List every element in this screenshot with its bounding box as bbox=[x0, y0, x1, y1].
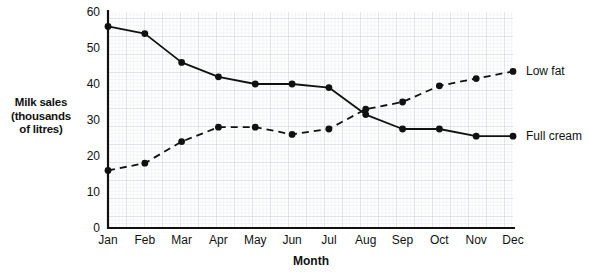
data-point bbox=[105, 167, 112, 174]
x-axis-tick-label: May bbox=[235, 234, 275, 246]
data-point bbox=[473, 75, 480, 82]
data-point bbox=[178, 138, 185, 145]
data-point bbox=[510, 133, 517, 140]
x-axis-tick-label: Oct bbox=[419, 234, 459, 246]
series-label-low-fat: Low fat bbox=[526, 65, 565, 77]
x-axis-tick-label: Jun bbox=[272, 234, 312, 246]
data-point bbox=[178, 59, 185, 66]
y-axis-tick-label: 0 bbox=[74, 222, 100, 234]
data-point bbox=[215, 73, 222, 80]
grid-layer bbox=[108, 12, 513, 228]
data-point bbox=[399, 126, 406, 133]
y-axis-tick-label: 60 bbox=[74, 6, 100, 18]
data-point bbox=[510, 68, 517, 75]
data-point bbox=[473, 133, 480, 140]
data-point bbox=[362, 106, 369, 113]
x-axis-tick-label: Aug bbox=[346, 234, 386, 246]
data-point bbox=[141, 30, 148, 37]
x-axis-tick-label: Apr bbox=[198, 234, 238, 246]
x-axis-tick-label: Sep bbox=[383, 234, 423, 246]
milk-sales-line-chart: Milk sales (thousands of litres) Month 0… bbox=[0, 0, 589, 274]
y-axis-tick-label: 40 bbox=[74, 78, 100, 90]
x-axis-tick-label: Jan bbox=[88, 234, 128, 246]
data-point bbox=[289, 81, 296, 88]
x-axis-tick-label: Jul bbox=[309, 234, 349, 246]
data-point bbox=[105, 23, 112, 30]
x-axis-tick-label: Nov bbox=[456, 234, 496, 246]
series-label-full-cream: Full cream bbox=[526, 130, 582, 142]
y-axis-tick-label: 20 bbox=[74, 150, 100, 162]
data-point bbox=[252, 124, 259, 131]
x-axis-tick-label: Feb bbox=[125, 234, 165, 246]
data-point bbox=[326, 84, 333, 91]
data-point bbox=[141, 160, 148, 167]
x-axis-tick-label: Mar bbox=[162, 234, 202, 246]
y-axis-tick-label: 30 bbox=[74, 114, 100, 126]
x-axis-tick-label: Dec bbox=[493, 234, 533, 246]
data-point bbox=[399, 99, 406, 106]
data-point bbox=[252, 81, 259, 88]
data-point bbox=[289, 131, 296, 138]
y-axis-tick-label: 10 bbox=[74, 186, 100, 198]
y-axis-tick-label: 50 bbox=[74, 42, 100, 54]
data-point bbox=[215, 124, 222, 131]
data-point bbox=[436, 126, 443, 133]
data-point bbox=[326, 126, 333, 133]
data-point bbox=[436, 82, 443, 89]
